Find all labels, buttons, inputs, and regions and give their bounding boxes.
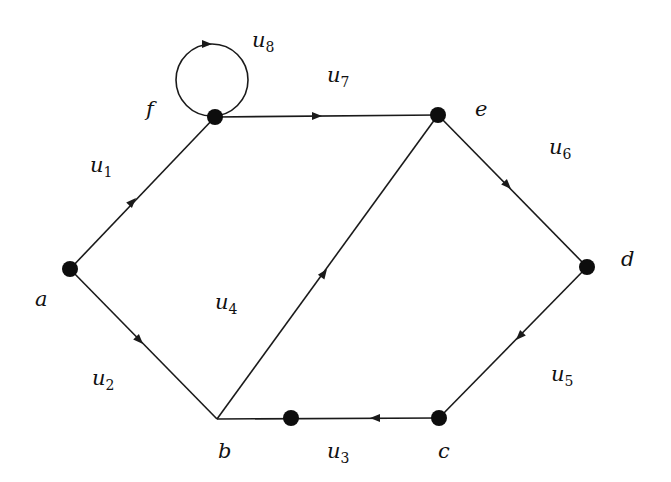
- edge-u8-loop: [176, 44, 248, 116]
- vertex-label-f: f: [144, 97, 157, 121]
- vertex-label-d: d: [621, 247, 634, 271]
- edge-u1: [70, 117, 215, 269]
- arrow-u8-icon: [202, 40, 212, 48]
- edge-u7: [215, 115, 438, 117]
- edge-u2: [70, 269, 217, 419]
- vertex-label-b: b: [218, 439, 231, 463]
- edge-label-u3: u3: [327, 439, 349, 466]
- edge-u3: [217, 418, 439, 419]
- arrow-u1-icon: [126, 195, 139, 208]
- arrow-u7-icon: [312, 112, 322, 120]
- edge-label-u4: u4: [215, 290, 238, 317]
- vertex-a: [62, 261, 78, 277]
- edge-label-u5: u5: [551, 362, 573, 389]
- edge-label-u7: u7: [327, 63, 349, 90]
- vertex-label-e: e: [475, 97, 487, 121]
- arrow-u3-icon: [370, 414, 380, 422]
- arrowheads: [126, 40, 526, 422]
- edge-label-u8: u8: [252, 28, 274, 55]
- vertex-midpoint-bc: [283, 410, 299, 426]
- edge-u4: [217, 115, 438, 419]
- vertex-d: [579, 259, 595, 275]
- edge-labels: u1 u2 u3 u4 u5 u6 u7 u8: [90, 28, 573, 466]
- edge-u5: [439, 267, 587, 418]
- edge-label-u2: u2: [92, 366, 114, 393]
- edge-label-u1: u1: [90, 153, 112, 180]
- edge-u6: [438, 115, 587, 267]
- vertex-e: [430, 107, 446, 123]
- vertex-label-c: c: [438, 439, 450, 463]
- vertex-c: [431, 410, 447, 426]
- graph-diagram: a b c d e f u1 u2 u3 u4 u5 u6 u7 u8: [0, 0, 671, 482]
- vertex-labels: a b c d e f: [35, 97, 634, 463]
- vertex-f: [207, 109, 223, 125]
- vertex-label-a: a: [35, 287, 48, 311]
- edge-label-u6: u6: [549, 135, 572, 162]
